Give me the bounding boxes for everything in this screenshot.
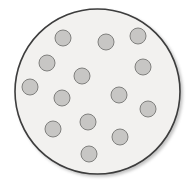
dot-8	[54, 90, 70, 106]
dot-10	[140, 101, 156, 117]
dish-outline-circle	[15, 9, 180, 174]
dot-9	[111, 87, 127, 103]
dot-1	[55, 30, 71, 46]
dot-14	[81, 146, 97, 162]
dot-4	[39, 55, 55, 71]
dot-5	[135, 59, 151, 75]
dot-6	[74, 68, 90, 84]
dot-13	[112, 129, 128, 145]
dot-7	[22, 79, 38, 95]
dot-11	[80, 114, 96, 130]
dot-3	[130, 28, 146, 44]
dot-2	[98, 34, 114, 50]
dish-with-dots-svg	[0, 0, 187, 183]
dot-12	[45, 121, 61, 137]
dot-dish-diagram	[0, 0, 187, 183]
